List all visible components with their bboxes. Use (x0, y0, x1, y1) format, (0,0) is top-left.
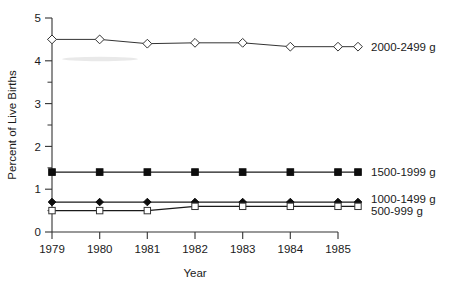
x-tick-label-1982: 1982 (182, 243, 208, 255)
data-point-1000-1499-g-1979 (48, 198, 56, 206)
data-point-2000-2499-g-1984 (286, 42, 295, 51)
series-1000-1499-g (48, 198, 362, 206)
data-point-500-999-g-1984 (287, 203, 293, 209)
y-tick-label-4: 4 (35, 55, 42, 67)
data-point-500-999-g-1982 (192, 203, 198, 209)
data-point-2000-2499-g-1983 (238, 38, 247, 47)
x-tick-label-1984: 1984 (278, 243, 304, 255)
data-point-500-999-g-1979 (49, 207, 55, 213)
series-1500-1999-g (49, 169, 362, 176)
x-tick-label-1981: 1981 (135, 243, 161, 255)
series-500-999-g (49, 203, 361, 214)
legend-marker-500-999-g (355, 203, 361, 209)
legend-marker-2000-2499-g (354, 42, 363, 51)
y-axis-title: Percent of Live Births (6, 70, 18, 180)
y-tick-label-5: 5 (35, 12, 41, 24)
data-point-1500-1999-g-1983 (239, 169, 246, 176)
y-tick-label-1: 1 (35, 183, 41, 195)
data-point-500-999-g-1981 (144, 207, 150, 213)
x-tick-label-1980: 1980 (87, 243, 113, 255)
data-point-500-999-g-1985 (335, 203, 341, 209)
x-axis-ticks (52, 232, 338, 239)
data-point-1500-1999-g-1985 (335, 169, 342, 176)
data-point-2000-2499-g-1980 (95, 35, 104, 44)
data-point-2000-2499-g-1981 (143, 39, 152, 48)
data-point-1500-1999-g-1980 (96, 169, 103, 176)
x-axis-title: Year (183, 267, 206, 279)
y-axis-minor-ticks (48, 39, 53, 210)
data-point-2000-2499-g-1982 (191, 38, 200, 47)
data-point-1500-1999-g-1981 (144, 169, 151, 176)
data-point-1500-1999-g-1984 (287, 169, 294, 176)
legend-label-2000-2499: 2000-2499 g (371, 41, 436, 53)
y-tick-label-3: 3 (35, 98, 41, 110)
x-tick-label-1979: 1979 (39, 243, 65, 255)
data-point-2000-2499-g-1985 (334, 42, 343, 51)
x-tick-label-1985: 1985 (325, 243, 351, 255)
legend-label-1500-1999: 1500-1999 g (371, 166, 436, 178)
data-point-1500-1999-g-1982 (192, 169, 199, 176)
legend-marker-1500-1999-g (355, 169, 362, 176)
scan-artifact (62, 57, 138, 61)
series-layer (48, 35, 363, 214)
legend-label-500-999: 500-999 g (371, 205, 423, 217)
series-2000-2499-g (48, 35, 363, 51)
y-tick-label-0: 0 (35, 226, 41, 238)
data-point-500-999-g-1980 (96, 207, 102, 213)
line-chart: 0 1 2 3 4 5 1979 1980 1981 1982 1983 198… (0, 0, 453, 289)
data-point-2000-2499-g-1979 (48, 35, 57, 44)
data-point-1000-1499-g-1981 (144, 198, 152, 206)
data-point-500-999-g-1983 (239, 203, 245, 209)
x-tick-label-1983: 1983 (230, 243, 256, 255)
y-tick-label-2: 2 (35, 141, 41, 153)
legend-label-1000-1499: 1000-1499 g (371, 193, 436, 205)
data-point-1000-1499-g-1980 (96, 198, 104, 206)
chart-container: 0 1 2 3 4 5 1979 1980 1981 1982 1983 198… (0, 0, 453, 289)
data-point-1500-1999-g-1979 (49, 169, 56, 176)
